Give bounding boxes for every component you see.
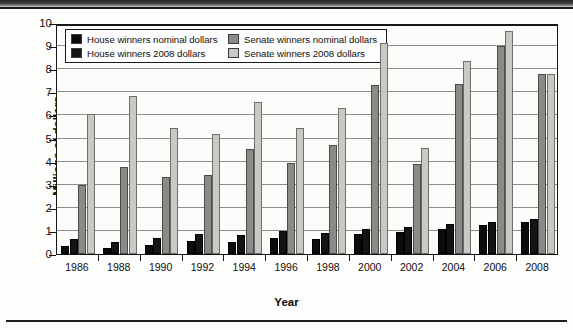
legend-item-0: House winners nominal dollars: [71, 34, 224, 45]
legend-label-1: Senate winners nominal dollars: [244, 34, 377, 45]
bar-2008-series-0: [521, 222, 529, 254]
bar-2006-series-1: [488, 222, 496, 254]
bar-1998-series-2: [329, 145, 337, 254]
bar-1994-series-3: [254, 102, 262, 254]
bar-2006-series-3: [505, 31, 513, 254]
gridline-8: [57, 68, 557, 69]
bar-1996-series-2: [287, 163, 295, 254]
bar-1988-series-3: [129, 96, 137, 254]
bar-2004-series-1: [446, 224, 454, 254]
x-tick-label-1996: 1996: [274, 261, 297, 273]
y-tick-label-9: 9: [26, 40, 52, 52]
bar-1994-series-2: [246, 149, 254, 254]
bar-1998-series-3: [338, 108, 346, 254]
x-tick-mark-2000: [349, 255, 350, 261]
bar-2004-series-0: [438, 229, 446, 254]
bar-1988-series-1: [111, 242, 119, 254]
bar-2002-series-0: [396, 232, 404, 254]
bar-1994-series-1: [237, 235, 245, 254]
x-tick-label-2008: 2008: [525, 261, 548, 273]
chart-legend: House winners nominal dollarsSenate winn…: [65, 29, 387, 63]
bar-1990-series-1: [153, 238, 161, 254]
y-tick-mark-8: [49, 70, 56, 71]
y-tick-mark-9: [49, 47, 56, 48]
bar-2000-series-2: [371, 85, 379, 254]
bar-1986-series-2: [78, 185, 86, 254]
x-tick-label-1990: 1990: [149, 261, 172, 273]
bar-2008-series-2: [538, 74, 546, 254]
bar-1986-series-0: [61, 246, 69, 254]
bar-1992-series-2: [204, 175, 212, 254]
bar-2008-series-1: [530, 219, 538, 254]
legend-swatch-icon-2: [71, 48, 82, 58]
bar-1986-series-1: [70, 239, 78, 254]
x-tick-mark-1992: [182, 255, 183, 261]
y-tick-label-7: 7: [26, 86, 52, 98]
bar-1990-series-0: [145, 245, 153, 254]
x-tick-label-1994: 1994: [233, 261, 256, 273]
bar-1988-series-2: [120, 167, 128, 254]
chart-figure: Millions of dollars Year 109876543210 19…: [0, 0, 573, 330]
bar-1994-series-0: [228, 242, 236, 254]
bar-1998-series-1: [321, 233, 329, 254]
bar-1990-series-2: [162, 177, 170, 254]
legend-label-2: House winners 2008 dollars: [87, 48, 205, 59]
x-tick-label-1988: 1988: [107, 261, 130, 273]
x-tick-mark-2006: [474, 255, 475, 261]
bar-2004-series-3: [463, 61, 471, 254]
y-tick-label-2: 2: [26, 202, 52, 214]
y-tick-label-1: 1: [26, 225, 52, 237]
x-tick-mark-2002: [391, 255, 392, 261]
x-tick-mark-1994: [223, 255, 224, 261]
bar-1998-series-0: [312, 239, 320, 254]
y-tick-mark-0: [49, 255, 56, 256]
bar-2006-series-2: [497, 46, 505, 254]
x-tick-mark-1998: [307, 255, 308, 261]
x-tick-label-2004: 2004: [442, 261, 465, 273]
x-tick-label-1986: 1986: [65, 261, 88, 273]
x-tick-label-2006: 2006: [484, 261, 507, 273]
legend-swatch-icon-1: [228, 34, 239, 44]
bar-2002-series-1: [404, 227, 412, 254]
y-tick-mark-5: [49, 140, 56, 141]
bar-2000-series-3: [380, 43, 388, 254]
bar-2000-series-1: [362, 229, 370, 254]
y-tick-mark-2: [49, 209, 56, 210]
x-tick-label-1992: 1992: [191, 261, 214, 273]
bar-2004-series-2: [455, 84, 463, 254]
y-tick-label-3: 3: [26, 179, 52, 191]
x-tick-label-2000: 2000: [358, 261, 381, 273]
legend-item-3: Senate winners 2008 dollars: [228, 48, 381, 59]
legend-item-2: House winners 2008 dollars: [71, 48, 224, 59]
y-tick-label-6: 6: [26, 109, 52, 121]
y-tick-mark-6: [49, 116, 56, 117]
x-tick-mark-1990: [140, 255, 141, 261]
bar-1988-series-0: [103, 248, 111, 254]
bar-1990-series-3: [170, 128, 178, 254]
bar-2006-series-0: [479, 225, 487, 254]
bar-1992-series-3: [212, 134, 220, 254]
bar-1986-series-3: [87, 114, 95, 254]
bar-2008-series-3: [547, 74, 555, 254]
y-tick-mark-3: [49, 186, 56, 187]
legend-label-3: Senate winners 2008 dollars: [244, 48, 365, 59]
legend-swatch-icon-3: [228, 48, 239, 58]
x-tick-mark-2004: [433, 255, 434, 261]
gridline-7: [57, 91, 557, 92]
bar-2002-series-2: [413, 164, 421, 254]
bar-1996-series-1: [279, 231, 287, 254]
legend-item-1: Senate winners nominal dollars: [228, 34, 381, 45]
y-tick-label-4: 4: [26, 156, 52, 168]
x-tick-label-1998: 1998: [316, 261, 339, 273]
x-tick-mark-1996: [265, 255, 266, 261]
y-tick-label-0: 0: [26, 248, 52, 260]
bar-1996-series-3: [296, 128, 304, 254]
y-tick-mark-1: [49, 232, 56, 233]
y-tick-label-5: 5: [26, 133, 52, 145]
y-tick-label-8: 8: [26, 63, 52, 75]
bar-1996-series-0: [270, 238, 278, 254]
bar-2002-series-3: [421, 148, 429, 254]
x-axis-title: Year: [0, 296, 573, 308]
scan-edge-top: [0, 0, 573, 7]
y-tick-mark-4: [49, 163, 56, 164]
